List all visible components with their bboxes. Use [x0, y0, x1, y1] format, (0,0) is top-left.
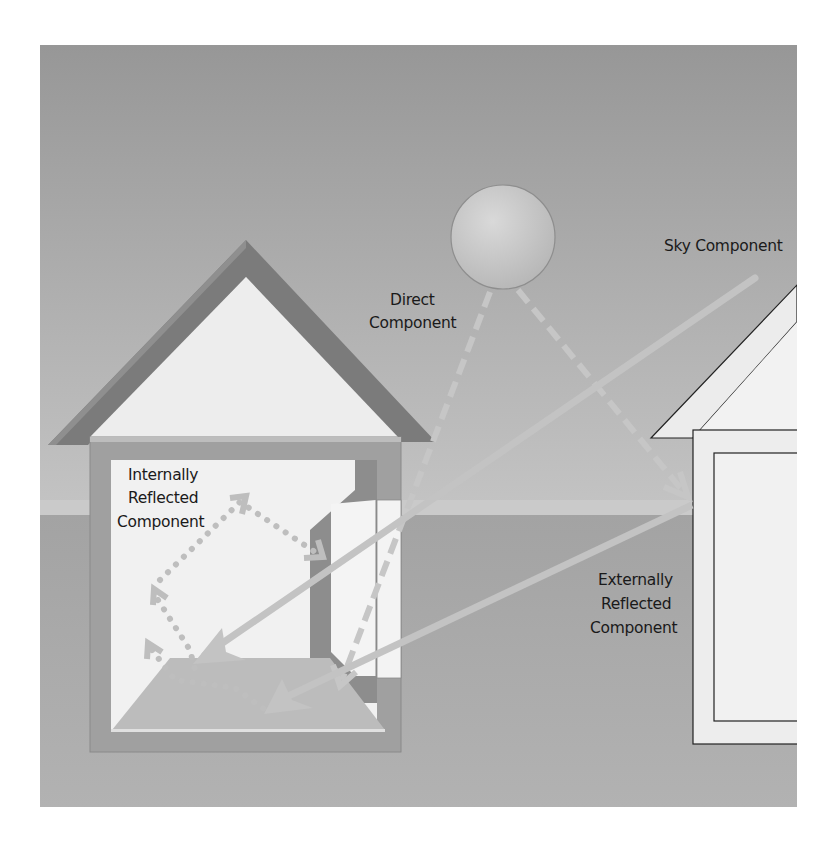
floor-edge — [111, 729, 385, 732]
svg-text:Reflected: Reflected — [128, 489, 198, 507]
svg-text:Component: Component — [369, 314, 457, 332]
right-house-window — [714, 453, 804, 721]
svg-text:Direct: Direct — [390, 291, 435, 309]
svg-text:Internally: Internally — [128, 466, 198, 484]
svg-text:Reflected: Reflected — [601, 595, 671, 613]
svg-text:Component: Component — [590, 619, 678, 637]
daylight-diagram: Sky Component Direct Component Internall… — [0, 0, 835, 844]
left-house-wall-top — [90, 437, 401, 442]
left-house — [90, 437, 401, 752]
internally-reflected-label: Internally Reflected Component — [117, 466, 205, 531]
sun-icon — [451, 185, 555, 289]
svg-text:Externally: Externally — [598, 571, 673, 589]
sky-component-label: Sky Component — [664, 237, 783, 255]
window-glass — [331, 500, 376, 676]
svg-text:Component: Component — [117, 513, 205, 531]
externally-reflected-label: Externally Reflected Component — [590, 571, 678, 637]
